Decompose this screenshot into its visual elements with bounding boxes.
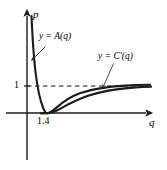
y-axis-label: p <box>33 9 39 20</box>
average-cost-curve-label: y = A(q) <box>39 32 71 42</box>
average-cost-leader-arrow <box>34 47 46 59</box>
marginal-cost-leader-arrow <box>104 64 114 86</box>
marginal-cost-curve-label: y = C′(q) <box>98 52 133 62</box>
cost-curves-figure: p q 1 1.4 y = A(q) y = C′(q) <box>0 0 167 170</box>
marginal-cost-curve <box>41 87 151 114</box>
cost-curves-plot <box>0 0 167 170</box>
y-tick-label-one: 1 <box>14 80 19 90</box>
x-axis-label: q <box>149 117 155 128</box>
x-tick-label-minimum: 1.4 <box>37 116 50 126</box>
